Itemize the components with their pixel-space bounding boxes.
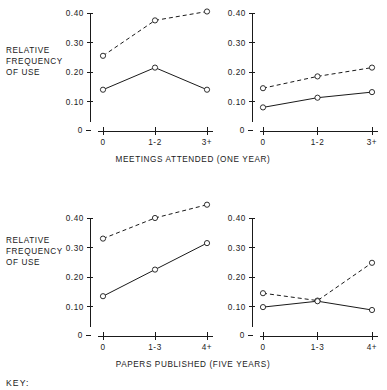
y-tick-label: 0 — [78, 126, 83, 135]
x-tick-label: 0 — [260, 138, 265, 147]
y-axis-label-top-line2: FREQUENCY — [6, 57, 63, 66]
data-point-marker — [152, 18, 157, 23]
data-point-marker — [152, 267, 157, 272]
x-tick-label: 3+ — [367, 138, 378, 147]
data-point-marker — [260, 86, 265, 91]
chart-panel-top-left: 0.400.300.200.10001-23+ — [66, 9, 213, 147]
series-line-dashed — [103, 205, 207, 239]
data-point-marker — [100, 87, 105, 92]
chart-panel-bottom-left: 0.400.300.200.10001-34+ — [66, 202, 213, 352]
key-label: KEY: — [6, 378, 30, 388]
chart-panels-layer: 0.400.300.200.10001-23+0.400.300.200.100… — [66, 9, 378, 352]
y-tick-label: 0.40 — [66, 214, 84, 223]
data-point-marker — [369, 260, 374, 265]
data-point-marker — [100, 53, 105, 58]
x-tick-label: 4+ — [202, 343, 213, 352]
data-point-marker — [100, 236, 105, 241]
y-axis-label-bottom-line2: FREQUENCY — [6, 247, 63, 256]
multi-panel-line-chart: 0.400.300.200.10001-23+0.400.300.200.100… — [0, 0, 387, 390]
data-point-marker — [204, 87, 209, 92]
y-tick-label: 0.10 — [66, 303, 84, 312]
x-tick-label: 0 — [100, 343, 105, 352]
chart-panel-bottom-right: 0.400.300.200.10001-34+ — [228, 214, 378, 352]
y-axis-label-top-line3: OF USE — [6, 68, 40, 77]
y-tick-label: 0.20 — [66, 68, 84, 77]
data-point-marker — [369, 307, 374, 312]
x-tick-label: 1-3 — [311, 343, 325, 352]
figure-root: 0.400.300.200.10001-23+0.400.300.200.100… — [0, 0, 387, 390]
data-point-marker — [315, 299, 320, 304]
y-tick-label: 0.20 — [228, 273, 246, 282]
data-point-marker — [204, 9, 209, 14]
x-tick-label: 3+ — [202, 138, 213, 147]
data-point-marker — [260, 291, 265, 296]
y-tick-label: 0.10 — [228, 98, 246, 107]
series-line-solid — [103, 68, 207, 90]
y-tick-label: 0 — [240, 331, 245, 340]
y-axis-label-top-line1: RELATIVE — [6, 46, 50, 55]
y-axis-label-bottom-line1: RELATIVE — [6, 236, 50, 245]
y-tick-label: 0 — [78, 331, 83, 340]
data-point-marker — [369, 90, 374, 95]
x-tick-label: 0 — [260, 343, 265, 352]
x-axis-title-top: MEETINGS ATTENDED (ONE YEAR) — [116, 155, 271, 164]
data-point-marker — [369, 65, 374, 70]
y-tick-label: 0.10 — [228, 303, 246, 312]
chart-panel-top-right: 0.400.300.200.10001-23+ — [228, 9, 378, 147]
y-tick-label: 0.10 — [66, 98, 84, 107]
x-tick-label: 4+ — [367, 343, 378, 352]
data-point-marker — [152, 215, 157, 220]
data-point-marker — [260, 105, 265, 110]
x-tick-label: 1-3 — [148, 343, 162, 352]
x-tick-label: 1-2 — [311, 138, 325, 147]
y-tick-label: 0.20 — [66, 273, 84, 282]
data-point-marker — [204, 241, 209, 246]
y-axis-label-bottom-line3: OF USE — [6, 258, 40, 267]
series-line-dashed — [263, 263, 372, 301]
x-tick-label: 1-2 — [148, 138, 162, 147]
y-tick-label: 0.30 — [66, 39, 84, 48]
y-tick-label: 0 — [240, 126, 245, 135]
data-point-marker — [315, 95, 320, 100]
y-tick-label: 0.30 — [66, 244, 84, 253]
y-tick-label: 0.40 — [228, 214, 246, 223]
x-tick-label: 0 — [100, 138, 105, 147]
y-tick-label: 0.40 — [66, 9, 84, 18]
x-axis-title-bottom: PAPERS PUBLISHED (FIVE YEARS) — [116, 360, 271, 369]
y-tick-label: 0.30 — [228, 39, 246, 48]
data-point-marker — [152, 65, 157, 70]
data-point-marker — [315, 74, 320, 79]
y-tick-label: 0.40 — [228, 9, 246, 18]
data-point-marker — [100, 294, 105, 299]
y-tick-label: 0.30 — [228, 244, 246, 253]
data-point-marker — [204, 202, 209, 207]
y-tick-label: 0.20 — [228, 68, 246, 77]
data-point-marker — [260, 305, 265, 310]
